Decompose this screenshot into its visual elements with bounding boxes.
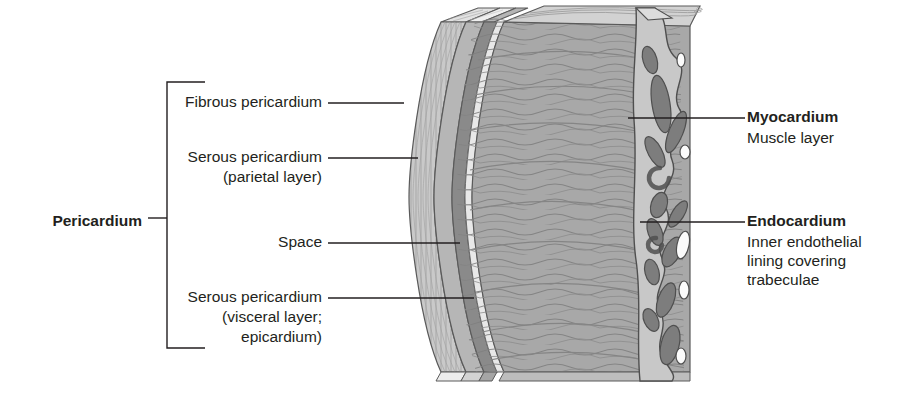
label-serous-pericardium-visceral-line3: epicardium) <box>60 327 322 346</box>
label-myocardium-description: Muscle layer <box>747 128 923 147</box>
label-serous-pericardium-parietal-line1: Serous pericardium <box>60 147 322 166</box>
label-fibrous-pericardium: Fibrous pericardium <box>60 92 322 111</box>
label-serous-pericardium-visceral-line1: Serous pericardium <box>60 287 322 306</box>
label-serous-pericardium-visceral-line2: (visceral layer; <box>60 307 322 326</box>
label-pericardium: Pericardium <box>0 211 142 230</box>
label-serous-pericardium-parietal-line2: (parietal layer) <box>60 167 322 186</box>
luminal-pocket <box>680 145 690 159</box>
luminal-pocket <box>677 53 685 67</box>
label-myocardium-title: Myocardium <box>747 107 923 126</box>
luminal-pocket <box>679 281 689 299</box>
label-endocardium-description: Inner endothelial lining covering trabec… <box>747 232 923 289</box>
label-space: Space <box>60 232 322 251</box>
figure-canvas: Pericardium Fibrous pericardium Serous p… <box>0 0 923 394</box>
label-endocardium-title: Endocardium <box>747 211 923 230</box>
luminal-pocket <box>676 348 686 364</box>
